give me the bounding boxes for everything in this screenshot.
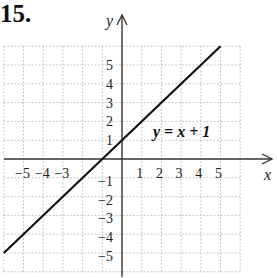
y-tick-label: −4 xyxy=(98,230,113,245)
y-tick-label: 4 xyxy=(106,77,113,92)
y-tick-label: 2 xyxy=(106,114,113,129)
y-tick-label: −1 xyxy=(98,174,113,189)
y-axis-label: y xyxy=(104,12,114,30)
x-tick-label: 5 xyxy=(215,166,222,181)
x-tick-label: 1 xyxy=(136,166,143,181)
graph-figure: 15. x y −5−4−312345 54321−1−2−3−4−5 y = … xyxy=(0,0,277,278)
x-tick-label: −3 xyxy=(54,166,69,181)
y-tick-label: −2 xyxy=(98,193,113,208)
y-tick-label: −5 xyxy=(98,249,113,264)
y-tick-label: 5 xyxy=(106,58,113,73)
y-tick-label: 3 xyxy=(106,96,113,111)
problem-number: 15. xyxy=(0,0,31,27)
x-tick-labels: −5−4−312345 xyxy=(15,166,222,181)
x-tick-label: 4 xyxy=(195,166,202,181)
equation-label: y = x + 1 xyxy=(151,123,210,141)
x-tick-label: −4 xyxy=(35,166,50,181)
y-tick-label: −3 xyxy=(98,211,113,226)
x-tick-label: −5 xyxy=(15,166,30,181)
y-tick-label: 1 xyxy=(106,133,113,148)
x-tick-label: 2 xyxy=(156,166,163,181)
x-axis-label: x xyxy=(263,166,271,183)
x-tick-label: 3 xyxy=(176,166,183,181)
